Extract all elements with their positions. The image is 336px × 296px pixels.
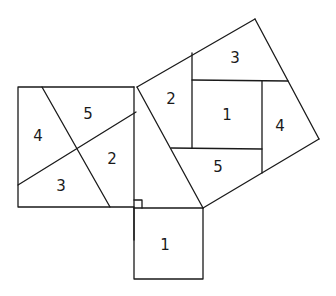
- left-square: [18, 87, 136, 207]
- label-left-5: 5: [83, 105, 93, 123]
- right-angle-marker: [134, 200, 142, 208]
- pythagorean-dissection-diagram: 4 5 2 3 1 3 2 1 4 5: [0, 0, 336, 296]
- label-left-2: 2: [107, 150, 117, 168]
- piece-labels: 4 5 2 3 1 3 2 1 4 5: [33, 49, 285, 254]
- label-hyp-5: 5: [213, 158, 223, 176]
- cut-line-2: [18, 112, 136, 185]
- inner-horizontal-bottom: [171, 148, 262, 149]
- label-hyp-3: 3: [230, 49, 240, 67]
- inner-horizontal-top: [192, 80, 288, 81]
- cut-line-1: [42, 87, 110, 207]
- label-bottom-1: 1: [160, 236, 170, 254]
- label-hyp-2: 2: [166, 90, 176, 108]
- label-left-3: 3: [56, 177, 66, 195]
- label-left-4: 4: [33, 127, 43, 145]
- label-hyp-1: 1: [222, 106, 232, 124]
- label-hyp-4: 4: [275, 117, 285, 135]
